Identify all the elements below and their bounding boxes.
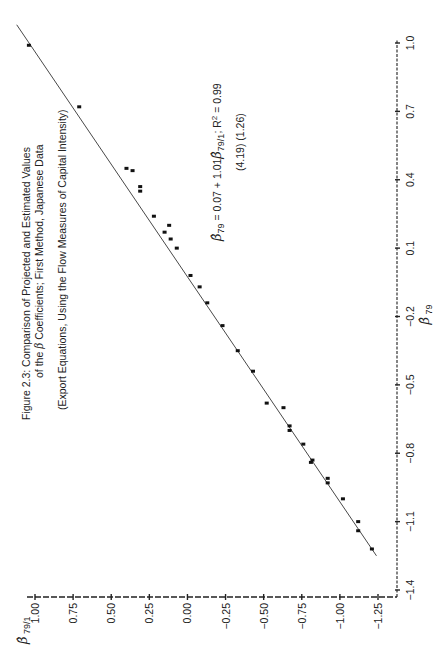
x-tick-label: −0.8: [404, 443, 416, 464]
y-tick-label: −0.75: [296, 603, 308, 630]
data-point: [138, 190, 142, 193]
y-tick-label: −0.50: [258, 603, 270, 630]
x-tick-label: 0.7: [404, 104, 416, 119]
data-point: [188, 274, 192, 277]
x-axis-title: β̂ 79: [417, 304, 433, 325]
y-tick-label: 0.50: [105, 603, 117, 624]
data-point: [370, 547, 374, 550]
data-point: [221, 324, 225, 327]
data-point: [131, 169, 135, 172]
x-tick-label: 1.0: [404, 36, 416, 51]
data-point: [27, 44, 31, 47]
data-point: [138, 185, 142, 188]
data-point: [281, 406, 285, 409]
x-tick-label: 0.1: [404, 241, 416, 256]
x-tick-label: −1.1: [404, 511, 416, 532]
t-statistics: (4.19) (1.26): [234, 113, 246, 171]
data-point: [341, 497, 345, 500]
data-point: [326, 477, 330, 480]
y-tick-label: 0.00: [181, 603, 193, 624]
regression-line: [17, 25, 377, 556]
data-point: [169, 238, 173, 241]
data-point: [356, 520, 360, 523]
data-point: [198, 285, 202, 288]
data-point: [152, 215, 156, 218]
regression-equation: β̂79 = 0.07 + 1.01β̂79/1; R2 = 0.99 (4.1…: [209, 83, 246, 242]
y-tick-label: −1.00: [334, 603, 346, 630]
y-tick-label: −1.25: [372, 603, 384, 630]
data-point: [205, 301, 209, 304]
y-tick-label: 0.75: [67, 603, 79, 624]
rotated-figure: Figure 2.3: Comparison of Projected and …: [0, 0, 433, 646]
y-tick-label: −0.25: [220, 603, 232, 630]
y-axis-title: β̂ 79/1: [15, 616, 32, 645]
fit-line: [17, 25, 377, 556]
data-point: [265, 402, 269, 405]
x-tick-label: −0.2: [404, 306, 416, 327]
data-point: [356, 529, 360, 532]
x-tick-label: −0.5: [404, 374, 416, 395]
axes: −1.4−1.1−0.8−0.5−0.20.10.40.71.01.000.75…: [15, 36, 433, 645]
data-point: [326, 481, 330, 484]
scatter-plot: −1.4−1.1−0.8−0.5−0.20.10.40.71.01.000.75…: [0, 0, 433, 646]
data-point: [301, 443, 305, 446]
data-point: [77, 105, 81, 108]
data-point: [163, 231, 167, 234]
y-tick-label: 0.25: [143, 603, 155, 624]
x-tick-label: −1.4: [404, 579, 416, 600]
figure-page: Figure 2.3: Comparison of Projected and …: [0, 0, 433, 646]
data-point: [309, 461, 313, 464]
equation-text: β̂79 = 0.07 + 1.01β̂79/1; R2 = 0.99: [209, 83, 226, 242]
data-point: [236, 349, 240, 352]
data-point: [288, 429, 292, 432]
data-point: [288, 424, 292, 427]
data-point: [167, 224, 171, 227]
x-tick-label: 0.4: [404, 172, 416, 187]
data-point: [124, 167, 128, 170]
data-point: [251, 370, 255, 373]
data-point: [175, 247, 179, 250]
